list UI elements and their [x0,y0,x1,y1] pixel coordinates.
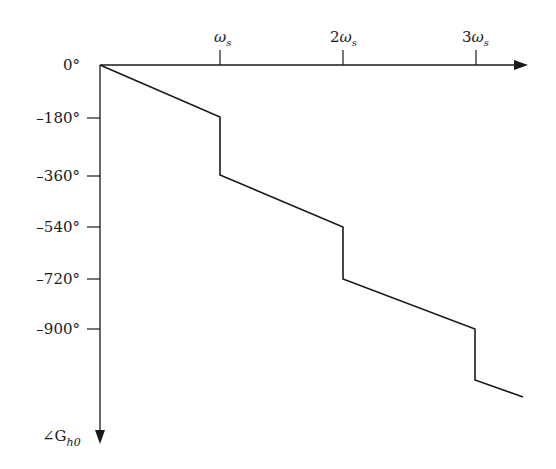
x-tick-label-2: 2ωs [330,28,357,48]
x-ticks [220,50,476,65]
y-tick-label-900: –900° [36,320,80,338]
y-tick-label-180: –180° [36,109,80,127]
y-tick-label-360: –360° [36,167,80,185]
phase-curve [100,65,523,397]
y-tick-label-720: –720° [36,270,80,288]
y-axis-arrow-icon [95,430,105,444]
phase-plot: ωs 2ωs 3ωs 0° –180° –360° –540° –720° –9… [0,0,556,469]
y-tick-label-540: –540° [36,218,80,236]
x-tick-label-1: ωs [214,28,231,48]
y-ticks [87,118,100,329]
x-axis-arrow-icon [514,60,528,70]
y-tick-label-0: 0° [63,56,80,74]
y-axis-label: ∠Gh0 [42,427,81,449]
x-tick-label-3: 3ωs [462,28,489,48]
